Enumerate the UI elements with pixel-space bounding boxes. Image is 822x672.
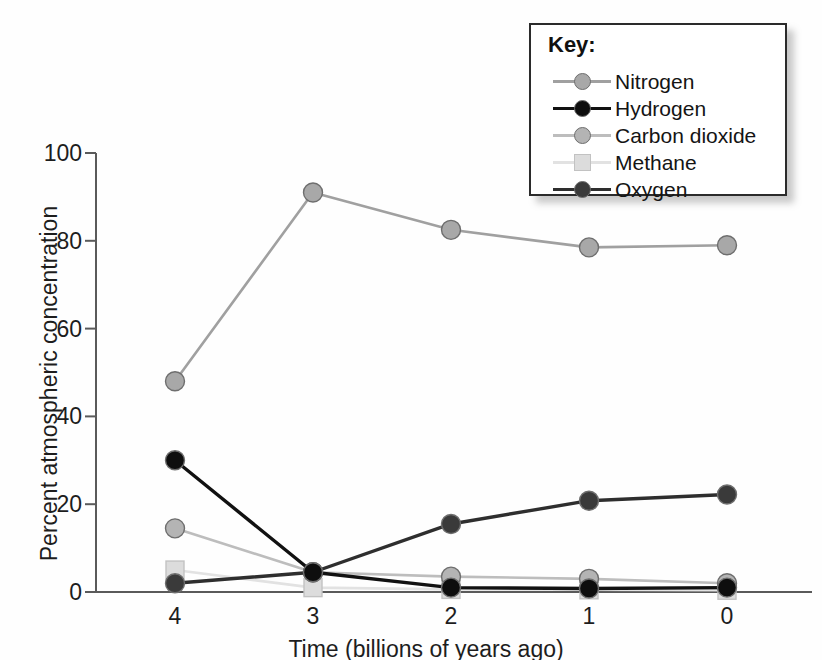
legend-marker xyxy=(574,100,591,117)
data-point xyxy=(580,491,599,510)
legend-swatch-icon xyxy=(553,125,611,147)
x-tick-label: 2 xyxy=(445,603,458,630)
page-margin xyxy=(0,660,822,672)
x-tick-label: 4 xyxy=(169,603,182,630)
data-point xyxy=(718,236,737,255)
legend-swatch-icon xyxy=(553,152,611,174)
data-point xyxy=(580,238,599,257)
legend-item-label: Oxygen xyxy=(615,178,687,202)
data-point xyxy=(166,574,185,593)
data-series-layer xyxy=(166,183,737,599)
legend-item-label: Methane xyxy=(615,151,697,175)
legend-swatch-icon xyxy=(553,71,611,93)
legend-item-label: Nitrogen xyxy=(615,70,694,94)
y-axis-title: Percent atmospheric concentration xyxy=(36,174,63,594)
legend-item-hydrogen[interactable]: Hydrogen xyxy=(553,95,706,122)
legend-swatch-icon xyxy=(553,179,611,201)
legend-item-label: Hydrogen xyxy=(615,97,706,121)
x-tick-label: 0 xyxy=(721,603,734,630)
data-point xyxy=(166,451,185,470)
legend-swatch-icon xyxy=(553,98,611,120)
data-point xyxy=(304,183,323,202)
data-point xyxy=(718,485,737,504)
y-tick-label: 100 xyxy=(20,140,82,167)
legend-marker xyxy=(574,127,591,144)
data-point xyxy=(442,514,461,533)
legend-marker xyxy=(574,73,591,90)
x-tick-label: 3 xyxy=(307,603,320,630)
data-point xyxy=(166,372,185,391)
data-point xyxy=(442,220,461,239)
legend-marker xyxy=(574,181,591,198)
data-point xyxy=(304,563,323,582)
data-point xyxy=(166,519,185,538)
x-axis-title: Time (billions of years ago) xyxy=(96,636,756,663)
legend-item-methane[interactable]: Methane xyxy=(553,149,697,176)
legend-marker xyxy=(574,154,591,171)
legend-title: Key: xyxy=(548,32,596,58)
x-tick-label: 1 xyxy=(583,603,596,630)
legend-item-carbon-dioxide[interactable]: Carbon dioxide xyxy=(553,122,756,149)
series-nitrogen xyxy=(166,183,737,391)
data-point xyxy=(442,578,461,597)
legend-item-oxygen[interactable]: Oxygen xyxy=(553,176,687,203)
legend-box: Key: NitrogenHydrogenCarbon dioxideMetha… xyxy=(529,23,787,196)
chart-figure: 10080604020043210 Percent atmospheric co… xyxy=(0,0,822,672)
legend-item-label: Carbon dioxide xyxy=(615,124,756,148)
data-point xyxy=(580,579,599,598)
data-point xyxy=(718,578,737,597)
legend-item-nitrogen[interactable]: Nitrogen xyxy=(553,68,694,95)
